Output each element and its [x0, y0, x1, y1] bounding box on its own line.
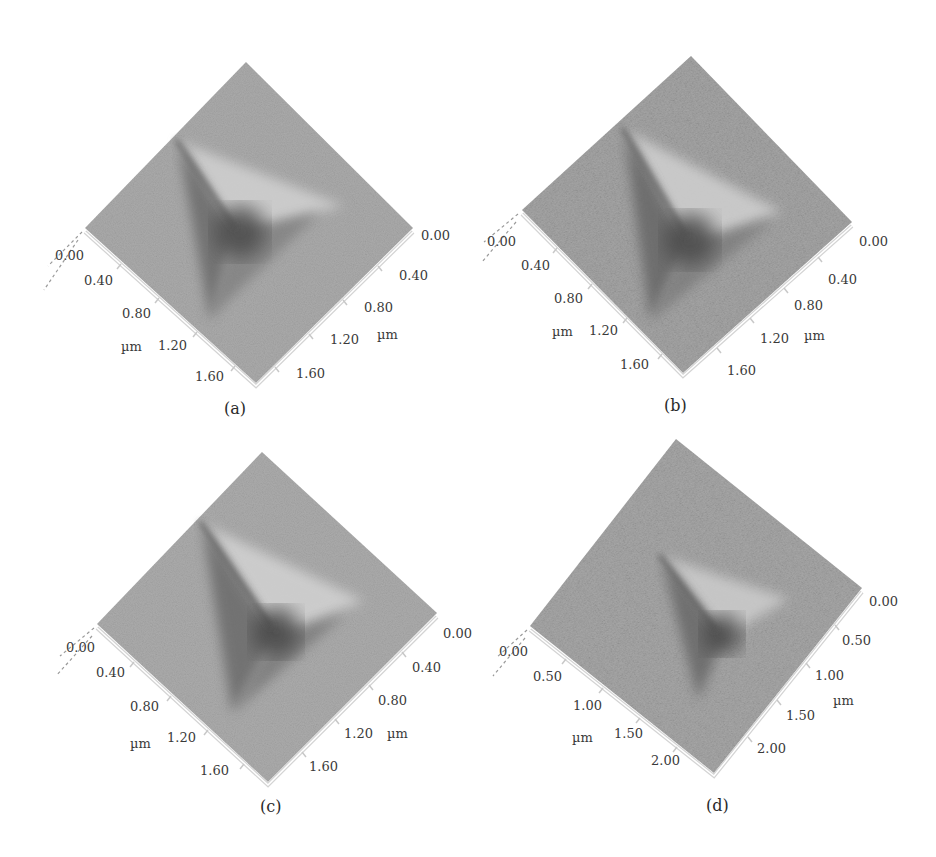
c-left-tick-0: 0.00 — [66, 640, 95, 655]
a-right-tick-2: 0.80 — [364, 300, 393, 315]
b-left-tick-1: 0.40 — [521, 258, 550, 273]
a-left-tick-0: 0.00 — [55, 248, 84, 263]
b-caption: (b) — [664, 396, 687, 415]
d-left-tick-4: 2.00 — [651, 753, 680, 768]
afm-figure: 0.00 0.40 0.80 µm 1.20 1.60 0.00 0.40 0.… — [0, 0, 936, 857]
a-left-tick-2: 0.80 — [122, 306, 151, 321]
a-left-tick-1: 0.40 — [84, 273, 113, 288]
b-left-tick-2: 0.80 — [554, 291, 583, 306]
b-right-tick-2: 0.80 — [794, 298, 823, 313]
a-right-tick-1: 0.40 — [399, 268, 428, 283]
c-left-tick-3: 1.20 — [167, 730, 196, 745]
b-left-tick-4: 1.60 — [620, 357, 649, 372]
c-right-tick-3: 1.20 — [344, 726, 373, 741]
c-right-tick-2: 0.80 — [378, 693, 407, 708]
c-caption: (c) — [260, 797, 281, 816]
b-right-tick-3: 1.20 — [760, 331, 789, 346]
a-left-tick-4: 1.60 — [195, 369, 224, 384]
panel-d: 0.00 0.50 1.00 µm 1.50 2.00 0.00 0.50 1.… — [493, 439, 898, 815]
d-right-tick-3: 1.50 — [786, 708, 815, 723]
d-left-tick-0: 0.00 — [499, 644, 528, 659]
d-caption: (d) — [706, 796, 729, 815]
panel-b: 0.00 0.40 0.80 µm 1.20 1.60 0.00 0.40 0.… — [482, 56, 888, 415]
b-right-tick-4: 1.60 — [727, 363, 756, 378]
panel-c: 0.00 0.40 0.80 µm 1.20 1.60 0.00 0.40 0.… — [56, 452, 472, 816]
c-right-tick-1: 0.40 — [412, 660, 441, 675]
d-left-tick-1: 0.50 — [533, 669, 562, 684]
d-right-unit: µm — [833, 693, 854, 708]
d-right-tick-2: 1.00 — [815, 668, 844, 683]
b-left-tick-0: 0.00 — [487, 234, 516, 249]
b-left-tick-3: 1.20 — [589, 323, 618, 338]
d-right-tick-0: 0.00 — [869, 594, 898, 609]
afm-figure-canvas: 0.00 0.40 0.80 µm 1.20 1.60 0.00 0.40 0.… — [0, 0, 936, 857]
b-left-unit: µm — [552, 324, 573, 339]
a-right-tick-0: 0.00 — [421, 228, 450, 243]
b-right-tick-1: 0.40 — [828, 272, 857, 287]
b-right-unit: µm — [804, 328, 825, 343]
a-right-tick-3: 1.20 — [330, 332, 359, 347]
d-left-tick-2: 1.00 — [573, 698, 602, 713]
d-left-tick-3: 1.50 — [614, 726, 643, 741]
a-caption: (a) — [224, 399, 246, 418]
d-right-tick-4: 2.00 — [757, 741, 786, 756]
c-left-unit: µm — [130, 736, 151, 751]
c-right-tick-4: 1.60 — [309, 759, 338, 774]
c-left-tick-1: 0.40 — [96, 665, 125, 680]
b-right-tick-0: 0.00 — [859, 234, 888, 249]
a-right-unit: µm — [377, 327, 398, 342]
c-left-tick-4: 1.60 — [200, 763, 229, 778]
c-left-tick-2: 0.80 — [130, 699, 159, 714]
c-right-tick-0: 0.00 — [443, 626, 472, 641]
a-left-tick-3: 1.20 — [158, 338, 187, 353]
c-right-unit: µm — [387, 726, 408, 741]
d-right-tick-1: 0.50 — [842, 633, 871, 648]
a-left-unit: µm — [121, 339, 142, 354]
d-left-unit: µm — [572, 730, 593, 745]
panel-a: 0.00 0.40 0.80 µm 1.20 1.60 0.00 0.40 0.… — [44, 62, 450, 418]
a-right-tick-4: 1.60 — [296, 366, 325, 381]
